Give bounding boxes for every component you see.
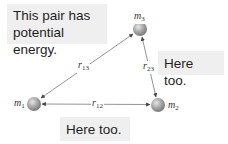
mass-subscript: 1 [21,102,25,110]
mass-label-m1: m1 [13,98,26,111]
mass-subscript: 2 [175,104,179,112]
mass-m3-sphere [133,22,147,36]
distance-subscript: 23 [147,65,154,73]
mass-m1-sphere [27,97,41,111]
callout-pair-12: Here too. [60,117,130,141]
mass-label-m2: m2 [167,100,180,113]
distance-label-r13: r13 [77,60,90,73]
mass-m2-sphere [151,98,165,112]
distance-subscript: 13 [82,64,89,72]
distance-subscript: 12 [96,102,103,110]
callout-pair-23: Here too. [158,51,224,75]
mass-subscript: 3 [141,15,145,23]
callout-pair-13: This pair has potential energy. [7,4,107,44]
distance-label-r23: r23 [142,61,155,74]
distance-label-r12: r12 [91,98,104,111]
mass-label-m3: m3 [133,11,146,24]
